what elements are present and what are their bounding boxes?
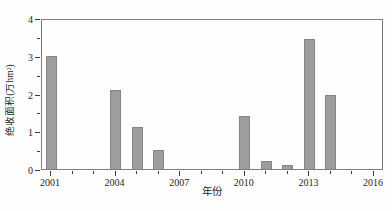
x-tick-label-2010: 2010: [234, 177, 254, 188]
y-tick-label-4: 4: [9, 14, 33, 25]
y-minor-tick-3.5: [37, 38, 40, 39]
x-major-tick-2013: [308, 171, 309, 176]
y-tick-label-3: 3: [9, 51, 33, 62]
y-major-tick-3: [35, 57, 40, 58]
x-tick-label-2004: 2004: [105, 177, 125, 188]
x-minor-tick-2008: [201, 171, 202, 174]
x-tick-label-2001: 2001: [40, 177, 60, 188]
bar-2013: [304, 39, 315, 169]
bar-2005: [132, 127, 143, 169]
bar-2014: [325, 95, 336, 169]
x-minor-tick-2006: [158, 171, 159, 174]
bar-2001: [46, 56, 57, 169]
x-minor-tick-2012: [287, 171, 288, 174]
x-axis-title: 年份: [202, 183, 222, 198]
x-major-tick-2016: [373, 171, 374, 176]
y-major-tick-2: [35, 95, 40, 96]
x-major-tick-2004: [115, 171, 116, 176]
x-tick-label-2007: 2007: [169, 177, 189, 188]
bar-2011: [261, 161, 272, 169]
bar-2006: [153, 150, 164, 169]
x-minor-tick-2015: [351, 171, 352, 174]
x-minor-tick-2014: [330, 171, 331, 174]
bar-chart-figure: 绝收面积(万hm²) 年份 20012004200720102013201601…: [0, 0, 392, 211]
y-major-tick-1: [35, 132, 40, 133]
x-minor-tick-2009: [222, 171, 223, 174]
y-axis-title: 绝收面积(万hm²): [2, 64, 16, 135]
bar-2010: [239, 116, 250, 169]
x-minor-tick-2003: [93, 171, 94, 174]
x-minor-tick-2005: [136, 171, 137, 174]
bar-2012: [282, 165, 293, 169]
x-minor-tick-2002: [72, 171, 73, 174]
y-tick-label-2: 2: [9, 89, 33, 100]
y-minor-tick-0.5: [37, 151, 40, 152]
y-minor-tick-1.5: [37, 113, 40, 114]
bar-2004: [110, 90, 121, 169]
x-tick-label-2016: 2016: [363, 177, 383, 188]
plot-area: [41, 19, 383, 170]
y-tick-label-1: 1: [9, 127, 33, 138]
x-tick-label-2013: 2013: [298, 177, 318, 188]
x-major-tick-2010: [244, 171, 245, 176]
y-tick-label-0: 0: [9, 165, 33, 176]
y-major-tick-4: [35, 19, 40, 20]
x-major-tick-2001: [50, 171, 51, 176]
y-minor-tick-2.5: [37, 76, 40, 77]
x-minor-tick-2011: [265, 171, 266, 174]
y-major-tick-0: [35, 170, 40, 171]
x-major-tick-2007: [179, 171, 180, 176]
